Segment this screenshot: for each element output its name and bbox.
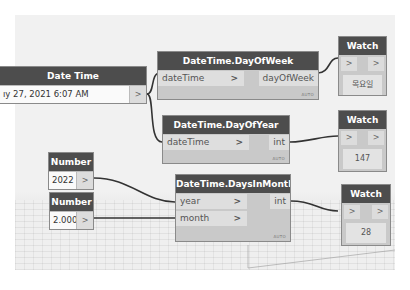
input-port-datetime[interactable]: dateTime > <box>163 135 249 150</box>
input-port[interactable]: > <box>344 205 360 219</box>
node-title: Watch <box>339 111 386 129</box>
chevron-right-icon: > <box>235 135 243 150</box>
node-title: Date Time <box>0 67 146 85</box>
node-title: DateTime.DayOfYear <box>163 116 289 134</box>
node-number-year[interactable]: Number 2022 > <box>48 152 94 190</box>
node-dayofyear[interactable]: DateTime.DayOfYear dateTime > int AUTO <box>162 115 290 164</box>
input-port-year[interactable]: year > <box>176 194 247 209</box>
lacing-label[interactable]: AUTO <box>273 156 285 161</box>
output-port-int[interactable]: int <box>269 135 289 150</box>
node-dayofweek[interactable]: DateTime.DayOfWeek dateTime > dayOfWeek … <box>157 51 319 100</box>
node-watch-dayofweek[interactable]: Watch > > 목요일 <box>338 36 387 96</box>
output-port-int[interactable]: int <box>270 194 290 209</box>
node-title: Watch <box>339 37 386 55</box>
datetime-value-field[interactable]: ıy 27, 2021 6:07 AM > <box>0 85 146 103</box>
node-title: Watch <box>342 185 390 203</box>
watch-result: 28 <box>346 223 386 243</box>
input-port-datetime[interactable]: dateTime > <box>158 71 244 86</box>
output-port[interactable]: > <box>129 86 146 103</box>
chevron-right-icon: > <box>230 71 238 86</box>
output-port[interactable]: > <box>76 212 93 229</box>
node-watch-dayofyear[interactable]: Watch > > 147 <box>338 110 387 172</box>
watch-result: 147 <box>343 149 382 169</box>
node-date-time[interactable]: Date Time ıy 27, 2021 6:07 AM > <box>0 66 147 104</box>
node-watch-daysinmonth[interactable]: Watch > > 28 <box>341 184 391 246</box>
chevron-right-icon: > <box>233 211 241 226</box>
node-title: DateTime.DayOfWeek <box>158 52 318 70</box>
input-port-month[interactable]: month > <box>176 211 247 226</box>
number-value-field[interactable]: 2022 > <box>49 171 93 189</box>
lacing-label[interactable]: AUTO <box>302 92 314 97</box>
chevron-right-icon: > <box>233 194 241 209</box>
output-port[interactable]: > <box>76 172 93 189</box>
input-port[interactable]: > <box>341 131 357 145</box>
node-title: Number <box>50 193 93 211</box>
lacing-label[interactable]: AUTO <box>274 234 286 239</box>
input-port[interactable]: > <box>341 57 357 71</box>
node-daysinmonth[interactable]: DateTime.DaysInMonth year > int month > … <box>175 174 291 242</box>
node-number-month[interactable]: Number 2.000 > <box>49 192 94 230</box>
output-port[interactable]: > <box>368 131 384 145</box>
output-port-dayofweek[interactable]: dayOfWeek <box>259 71 318 86</box>
number-value-field[interactable]: 2.000 > <box>50 211 93 229</box>
output-port[interactable]: > <box>372 205 388 219</box>
node-title: Number <box>49 153 93 171</box>
node-title: DateTime.DaysInMonth <box>176 175 290 193</box>
output-port[interactable]: > <box>368 57 384 71</box>
watch-result: 목요일 <box>343 75 382 95</box>
